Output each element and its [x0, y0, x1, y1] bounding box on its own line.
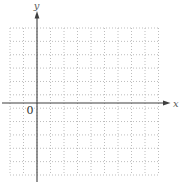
x-axis-label: x	[173, 98, 179, 109]
y-axis-arrowhead	[35, 11, 40, 19]
y-axis-label: y	[33, 0, 40, 11]
grid-lines	[10, 28, 159, 175]
origin-label: 0	[27, 104, 34, 117]
coordinate-grid-svg: x y 0	[0, 0, 182, 182]
x-axis-arrowhead	[163, 101, 171, 106]
coordinate-plane-figure: x y 0	[0, 0, 182, 182]
